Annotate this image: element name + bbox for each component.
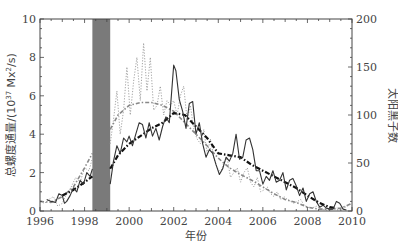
helicity-sunspot-chart: 19961998200020022004200620082010 0246810… [0,0,398,249]
series-line [110,43,352,210]
x-tick-label: 2004 [204,215,232,228]
x-tick-label: 2008 [293,215,321,228]
y-tick-label: 10 [22,13,36,26]
y-tick-label: 8 [29,51,36,64]
series-line [110,65,346,210]
y-ticks-left: 0246810 [22,13,44,218]
shaded-region [92,19,110,211]
series-line [40,153,92,202]
x-tick-label: 2000 [115,215,143,228]
y2-tick-label: 50 [356,157,370,170]
series-layer [40,43,352,210]
x-tick-label: 2002 [160,215,188,228]
x-axis-title: 年份 [185,229,207,243]
y-tick-label: 6 [29,90,36,103]
y2-tick-label: 150 [356,61,377,74]
y2-tick-label: 100 [356,109,377,122]
y-tick-label: 4 [29,128,36,141]
x-tick-label: 1998 [71,215,99,228]
plot-frame [40,19,352,211]
y2-tick-label: 0 [356,205,363,218]
series-line [47,169,93,204]
data-gap-band [92,19,110,211]
y-axis-title-left: 总螺度通量/(1037 Mx2/s) [4,53,18,177]
y-tick-label: 0 [29,205,36,218]
x-tick-label: 2006 [249,215,277,228]
y-axis-title-right: 太阳黑子数 [386,88,398,143]
series-line [110,113,336,208]
y2-tick-label: 200 [356,13,377,26]
y-tick-label: 2 [29,167,36,180]
